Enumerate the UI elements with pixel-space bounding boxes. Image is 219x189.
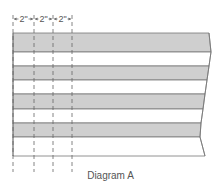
dimension-label: 2" xyxy=(58,14,66,24)
plain-stripe xyxy=(13,109,203,123)
shaded-stripe xyxy=(13,66,209,80)
shaded-stripe xyxy=(13,94,205,109)
dimension-label: 2" xyxy=(39,14,47,24)
plain-stripe xyxy=(13,52,211,66)
dimension-label: 2" xyxy=(19,14,27,24)
diagram-a: 2" 2" 2" xyxy=(0,0,219,189)
diagram-caption: Diagram A xyxy=(0,170,219,181)
fabric-stripes xyxy=(13,33,211,156)
plain-stripe xyxy=(13,137,205,156)
shaded-stripe xyxy=(13,33,211,52)
plain-stripe xyxy=(13,80,207,94)
shaded-stripe xyxy=(13,123,201,137)
dimension-markers: 2" 2" 2" xyxy=(14,14,71,24)
